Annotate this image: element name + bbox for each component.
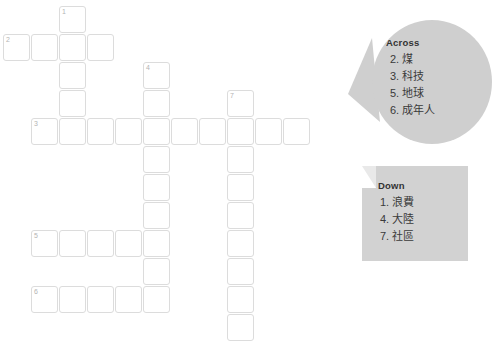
crossword-cell-number: 4	[146, 63, 150, 72]
across-clue-number: 5.	[390, 87, 399, 99]
across-clues-bubble: Across 2. 煤 3. 科技 5. 地球 6. 成年人	[340, 18, 492, 146]
crossword-cell[interactable]	[115, 230, 142, 257]
down-clue-item[interactable]: 4. 大陸	[378, 211, 468, 228]
crossword-cell[interactable]: 5	[31, 230, 58, 257]
crossword-cell[interactable]	[227, 286, 254, 313]
across-clue-item[interactable]: 6. 成年人	[386, 102, 490, 119]
crossword-cell[interactable]	[143, 258, 170, 285]
crossword-cell[interactable]: 7	[227, 90, 254, 117]
crossword-cell[interactable]	[59, 118, 86, 145]
across-clue-number: 3.	[390, 70, 399, 82]
crossword-cell[interactable]: 2	[3, 34, 30, 61]
crossword-cell[interactable]	[199, 118, 226, 145]
crossword-puzzle-page: 1247356 Across 2. 煤 3. 科技 5. 地球	[0, 0, 492, 359]
crossword-cell-number: 1	[62, 7, 66, 16]
down-clue-number: 4.	[380, 213, 389, 225]
crossword-cell[interactable]	[227, 230, 254, 257]
crossword-cell[interactable]	[87, 118, 114, 145]
crossword-cell[interactable]	[59, 286, 86, 313]
across-heading: Across	[386, 37, 490, 48]
across-clue-item[interactable]: 5. 地球	[386, 85, 490, 102]
crossword-cell[interactable]	[143, 174, 170, 201]
down-clue-item[interactable]: 1. 浪費	[378, 194, 468, 211]
crossword-cell[interactable]	[59, 90, 86, 117]
crossword-cell[interactable]	[59, 62, 86, 89]
across-clue-word: 成年人	[402, 104, 435, 116]
down-clues-content: Down 1. 浪費 4. 大陸 7. 社區	[378, 180, 468, 245]
crossword-cell[interactable]	[143, 230, 170, 257]
crossword-cell[interactable]	[31, 34, 58, 61]
crossword-cell[interactable]	[59, 230, 86, 257]
crossword-cell[interactable]	[143, 90, 170, 117]
across-clue-number: 6.	[390, 104, 399, 116]
down-clue-list: 1. 浪費 4. 大陸 7. 社區	[378, 194, 468, 245]
crossword-cell[interactable]	[87, 286, 114, 313]
crossword-cell[interactable]	[227, 174, 254, 201]
crossword-cell-number: 6	[34, 287, 38, 296]
down-clue-word: 浪費	[392, 196, 414, 208]
down-clues-box: Down 1. 浪費 4. 大陸 7. 社區	[362, 166, 468, 261]
crossword-cell[interactable]: 1	[59, 6, 86, 33]
crossword-cell[interactable]	[143, 286, 170, 313]
crossword-cell[interactable]	[283, 118, 310, 145]
crossword-cell-number: 3	[34, 119, 38, 128]
crossword-cell[interactable]	[87, 34, 114, 61]
across-clue-word: 煤	[402, 53, 413, 65]
down-clue-number: 1.	[380, 196, 389, 208]
across-clue-item[interactable]: 3. 科技	[386, 68, 490, 85]
crossword-cell[interactable]	[171, 118, 198, 145]
down-clue-word: 社區	[392, 230, 414, 242]
across-clue-list: 2. 煤 3. 科技 5. 地球 6. 成年人	[386, 51, 490, 119]
crossword-cell[interactable]	[115, 286, 142, 313]
crossword-cell[interactable]	[143, 146, 170, 173]
crossword-cell[interactable]	[87, 230, 114, 257]
crossword-cell[interactable]	[143, 202, 170, 229]
crossword-grid: 1247356	[0, 0, 330, 359]
crossword-cell[interactable]	[255, 118, 282, 145]
crossword-cell[interactable]	[227, 146, 254, 173]
down-clue-word: 大陸	[392, 213, 414, 225]
across-clue-word: 地球	[402, 87, 424, 99]
down-heading: Down	[378, 180, 468, 191]
across-clue-word: 科技	[402, 70, 424, 82]
crossword-cell[interactable]	[227, 118, 254, 145]
crossword-cell-number: 2	[6, 35, 10, 44]
crossword-cell[interactable]: 3	[31, 118, 58, 145]
down-clue-number: 7.	[380, 230, 389, 242]
crossword-cell[interactable]	[227, 202, 254, 229]
crossword-cell[interactable]	[115, 118, 142, 145]
crossword-cell[interactable]	[227, 258, 254, 285]
crossword-cell-number: 5	[34, 231, 38, 240]
crossword-cell[interactable]	[59, 34, 86, 61]
down-clue-item[interactable]: 7. 社區	[378, 228, 468, 245]
crossword-cell[interactable]	[227, 314, 254, 341]
crossword-cell[interactable]: 4	[143, 62, 170, 89]
across-clues-content: Across 2. 煤 3. 科技 5. 地球 6. 成年人	[386, 37, 490, 119]
across-clue-item[interactable]: 2. 煤	[386, 51, 490, 68]
across-clue-number: 2.	[390, 53, 399, 65]
crossword-cell-number: 7	[230, 91, 234, 100]
crossword-cell[interactable]: 6	[31, 286, 58, 313]
crossword-cell[interactable]	[143, 118, 170, 145]
